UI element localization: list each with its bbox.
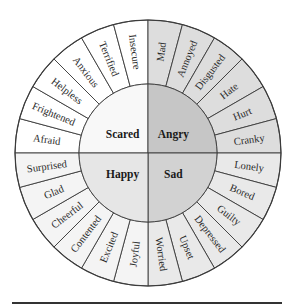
core-label-angry: Angry [158, 128, 190, 141]
inner-core [79, 84, 217, 222]
emotion-wheel: AfraidFrightenedHelplessAnxiousTerrified… [0, 0, 294, 308]
core-label-sad: Sad [164, 168, 183, 180]
baseline-rule [12, 302, 282, 304]
core-label-happy: Happy [106, 168, 139, 181]
core-label-scared: Scared [106, 128, 140, 140]
